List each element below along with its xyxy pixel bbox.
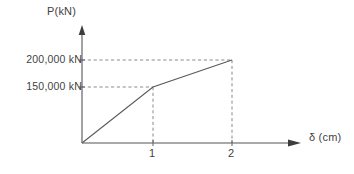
y-axis-tick-label-200000: 200,000 kN [22, 54, 82, 65]
load-deflection-curve [82, 60, 232, 143]
x-axis-tick-label-2: 2 [228, 148, 234, 159]
load-deflection-chart: 200,000 kN 150,000 kN 1 2 P(kN) δ (cm) [0, 0, 354, 174]
y-axis-title: P(kN) [47, 6, 76, 17]
x-axis-title: δ (cm) [309, 132, 341, 143]
y-axis-tick-label-150000: 150,000 kN [22, 81, 82, 92]
x-axis-tick-label-1: 1 [149, 148, 155, 159]
x-axis-arrow-icon [288, 140, 301, 147]
y-axis-arrow-icon [79, 25, 86, 35]
